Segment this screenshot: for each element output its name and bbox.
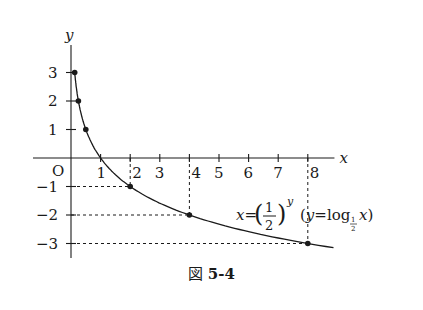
x-axis-label: x [339,149,348,167]
log-base-num: 1 [351,216,355,224]
x-tick-label: 2 [132,164,142,182]
data-point [305,241,311,247]
log-curve [75,72,334,248]
figure-caption: 図 5-4 [0,262,423,283]
origin-label: O [52,162,64,180]
y-tick-label: −3 [36,235,58,253]
data-point [72,70,78,76]
y-tick-label: −1 [36,178,58,196]
paren-left: ( [254,200,263,228]
y-axis-label: y [64,26,74,44]
y-tick-label: 2 [48,92,58,110]
data-point [127,184,133,190]
formula-annotation: x= ( 1 2 ) y (y=log 1 2 x) [236,195,373,233]
log-expr: (y=log [300,206,351,224]
exponent: y [286,195,294,208]
y-tick-label: 1 [48,121,58,139]
y-tick-label: 3 [48,64,58,82]
x-tick-label: 6 [244,164,254,182]
x-tick-label: 7 [273,164,283,182]
data-point [83,127,89,133]
x-tick-label: 8 [310,164,320,182]
y-tick-label: −2 [36,206,58,224]
data-point [187,212,193,218]
axes [33,45,334,258]
log-base-den: 2 [351,225,355,233]
caption-prefix: 図 [188,265,203,283]
x-tick-label: 4 [191,164,201,182]
paren-right: ) [277,200,286,228]
x-tick-label: 3 [155,164,165,182]
x-tick-label: 1 [97,164,107,182]
log-graph: 12345678321−1−2−3Oxy x= ( 1 2 ) y (y=log… [0,0,423,260]
x-tick-label: 5 [214,164,224,182]
frac-num: 1 [265,200,273,215]
data-point [76,98,82,104]
frac-den: 2 [265,218,273,233]
caption-number: 5-4 [208,265,235,283]
log-arg: x) [359,206,373,224]
